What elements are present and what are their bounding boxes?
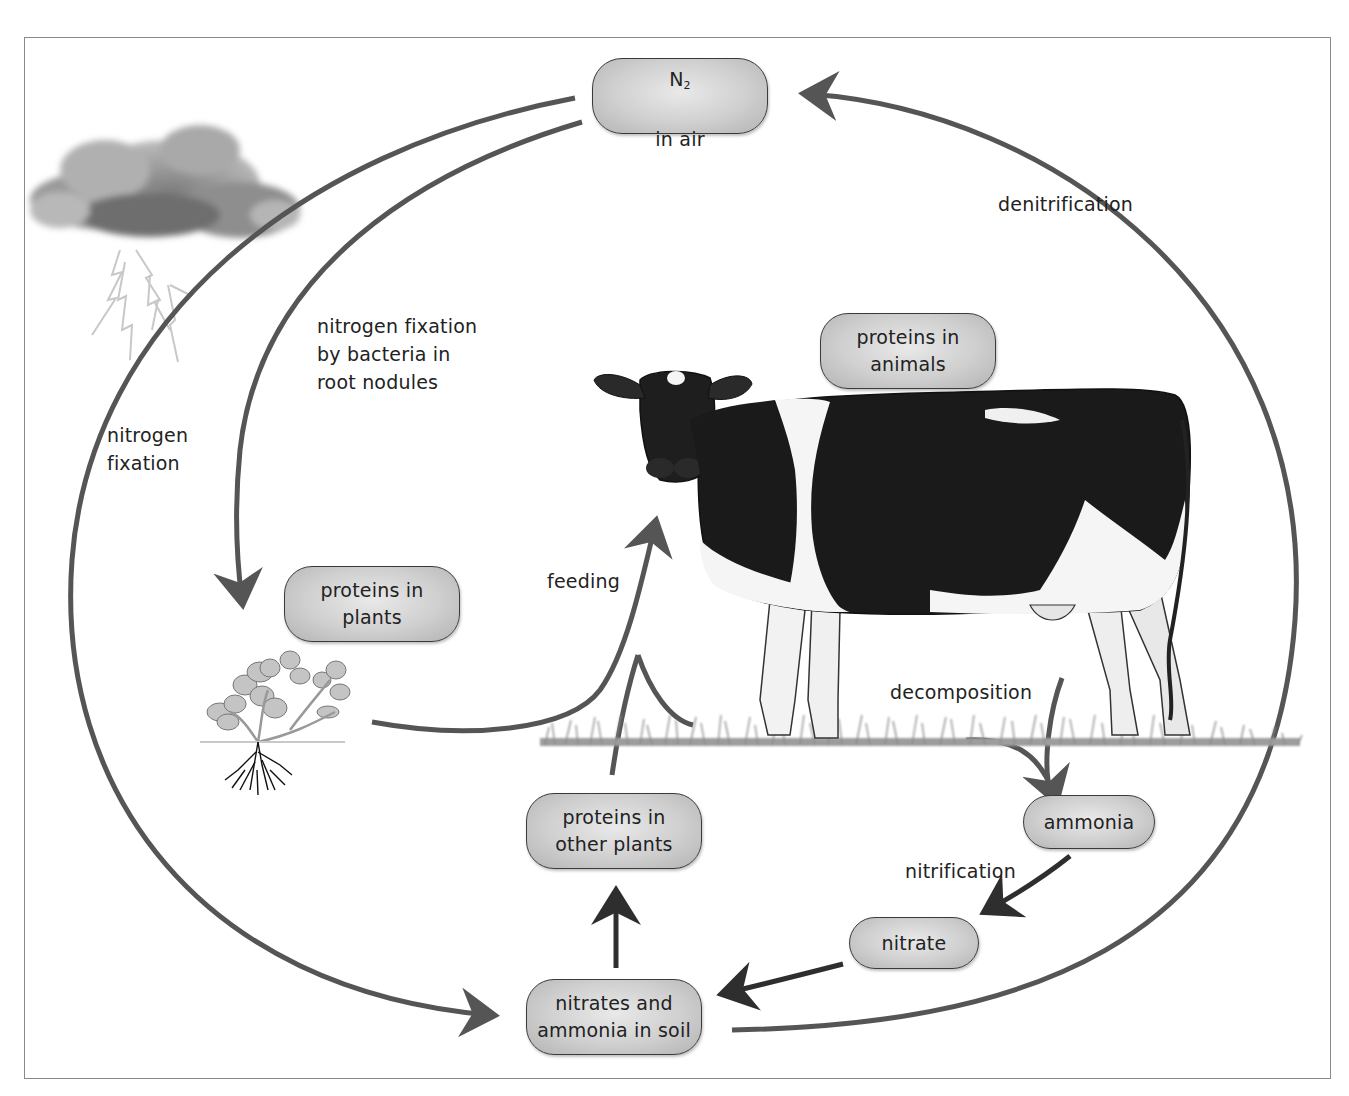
label-denitrification: denitrification [998, 190, 1133, 218]
label-nitrogen-fixation: nitrogen fixation [107, 421, 188, 477]
node-n2-in-air: N2 in air [592, 58, 768, 134]
label-decomposition: decomposition [890, 678, 1032, 706]
label-feeding: feeding [547, 567, 620, 595]
diagram-artwork [0, 0, 1349, 1096]
node-proteins-in-animals: proteins in animals [820, 313, 996, 389]
node-nitrate: nitrate [849, 917, 979, 969]
node-proteins-in-other-plants: proteins in other plants [526, 793, 702, 869]
node-ammonia: ammonia [1023, 795, 1155, 849]
node-proteins-in-plants: proteins in plants [284, 566, 460, 642]
label-nitrification: nitrification [905, 857, 1016, 885]
arrow-feeding-branch [638, 655, 693, 725]
arrow-decomposition-a [1047, 678, 1062, 780]
clover-plant-illustration [200, 651, 350, 795]
label-nitrogen-fixation-bacteria: nitrogen fixation by bacteria in root no… [317, 312, 477, 396]
node-nitrates-ammonia-in-soil: nitrates and ammonia in soil [526, 979, 702, 1055]
roots-icon [225, 742, 292, 795]
n2-formula: N2 [669, 68, 691, 90]
storm-cloud-icon [30, 125, 300, 238]
arrow-nitrate-to-soil [726, 964, 843, 993]
arrow-decomposition-b [966, 740, 1055, 798]
n2-line2: in air [655, 128, 704, 150]
arrow-feeding-other-plants [612, 655, 638, 775]
